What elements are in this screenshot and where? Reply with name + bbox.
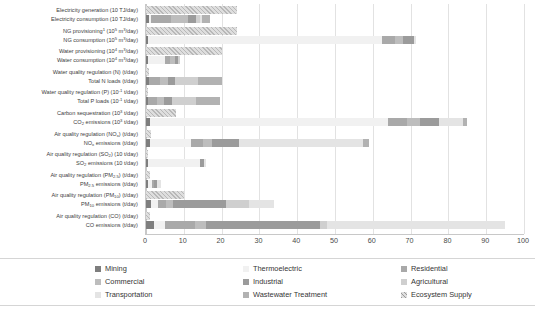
- stacked-bar: [146, 118, 467, 126]
- bar-row: [146, 15, 524, 24]
- bar-segment-industrial: [420, 118, 439, 126]
- legend-item-commercial[interactable]: Commercial: [95, 277, 243, 286]
- stacked-bar: [146, 15, 210, 23]
- legend-item-thermoelectric[interactable]: Thermoelectric: [243, 264, 401, 273]
- category-label: Air quality regulation (NOx) (t/day): [54, 130, 138, 139]
- legend-item-transportation[interactable]: Transportation: [95, 290, 243, 299]
- stacked-bar: [146, 139, 369, 147]
- stacked-bar: [146, 27, 237, 35]
- stacked-bar: [146, 36, 416, 44]
- category-label: CO2 emissions (103 t/day): [73, 118, 138, 127]
- x-tick-label: 100: [517, 236, 529, 245]
- stacked-bar: [146, 88, 148, 96]
- bar-row: [146, 171, 524, 180]
- stacked-bar: [146, 212, 150, 220]
- legend-item-mining[interactable]: Mining: [95, 264, 243, 273]
- bar-segment-ecosystem-supply: [146, 212, 150, 220]
- bar-segment-residential: [382, 36, 395, 44]
- legend-swatch: [243, 279, 249, 285]
- category-label: Air quality regulation (PM2.5) (t/day): [50, 171, 138, 180]
- bar-segment-transportation: [249, 200, 275, 208]
- bar-segment-industrial: [403, 36, 414, 44]
- category-label: Electricity generation (10 TJ/day): [56, 6, 138, 14]
- category-label: PM10 emissions (t/day): [81, 200, 138, 209]
- legend-swatch: [95, 292, 101, 298]
- legend-swatch: [401, 266, 407, 272]
- bar-segment-commercial: [157, 97, 164, 105]
- bar-segment-ecosystem-supply: [146, 109, 176, 117]
- legend-swatch: [95, 279, 101, 285]
- x-tick-label: 60: [368, 236, 376, 245]
- legend-swatch: [401, 292, 407, 298]
- category-label: CO emissions (t/day): [86, 221, 138, 229]
- bar-row: [146, 200, 524, 209]
- x-tick-label: 0: [143, 236, 147, 245]
- legend-label: Wastewater Treatment: [253, 290, 327, 299]
- category-label: Carbon sequestration (103 t/day): [57, 109, 138, 118]
- bar-segment-industrial: [212, 139, 238, 147]
- legend-item-agricultural[interactable]: Agricultural: [401, 277, 535, 286]
- bar-segment-commercial: [395, 36, 403, 44]
- bar-row: [146, 191, 524, 200]
- bar-segment-transportation: [239, 139, 364, 147]
- bar-segment-ecosystem-supply: [146, 171, 150, 179]
- stacked-bar-chart: Electricity generation (10 TJ/day)Electr…: [0, 0, 535, 312]
- bar-segment-residential: [158, 200, 166, 208]
- x-tick-label: 70: [406, 236, 414, 245]
- stacked-bar: [146, 77, 222, 85]
- legend-label: Agricultural: [411, 277, 448, 286]
- legend-item-wastewater-treatment[interactable]: Wastewater Treatment: [243, 290, 401, 299]
- x-axis-ticks: 0102030405060708090100: [145, 236, 523, 250]
- legend-grid: MiningThermoelectricResidentialCommercia…: [95, 262, 535, 301]
- bar-row: [146, 118, 524, 127]
- category-label: NOx emissions (t/day): [84, 139, 138, 148]
- bar-segment-mining: [146, 221, 154, 229]
- x-tick-label: 10: [179, 236, 187, 245]
- legend-label: Mining: [105, 264, 127, 273]
- bar-segment-ecosystem-supply: [146, 191, 184, 199]
- bar-segment-thermoelectric: [148, 56, 165, 64]
- bar-segment-residential: [148, 97, 157, 105]
- bar-segment-agricultural: [175, 77, 198, 85]
- category-label: Air quality regulation (PM10) (t/day): [52, 191, 138, 200]
- bar-row: [146, 68, 524, 77]
- bar-segment-agricultural: [320, 221, 328, 229]
- bar-segment-wastewater-treatment: [198, 77, 221, 85]
- legend-item-ecosystem-supply[interactable]: Ecosystem Supply: [401, 290, 535, 299]
- bar-segment-residential: [191, 139, 202, 147]
- legend-label: Transportation: [105, 290, 152, 299]
- stacked-bar: [146, 130, 151, 138]
- bar-row: [146, 36, 524, 45]
- stacked-bar: [146, 180, 161, 188]
- legend-swatch: [95, 266, 101, 272]
- bar-row: [146, 27, 524, 36]
- bar-row: [146, 139, 524, 148]
- x-tick-label: 50: [330, 236, 338, 245]
- bar-segment-ecosystem-supply: [146, 68, 149, 76]
- bar-segment-wastewater-treatment: [202, 15, 210, 23]
- stacked-bar: [146, 221, 505, 229]
- bar-segment-ecosystem-supply: [146, 47, 222, 55]
- legend-item-residential[interactable]: Residential: [401, 264, 535, 273]
- legend-item-industrial[interactable]: Industrial: [243, 277, 401, 286]
- bar-segment-wastewater-treatment: [463, 118, 467, 126]
- stacked-bar: [146, 171, 150, 179]
- stacked-bar: [146, 68, 149, 76]
- bar-segment-thermoelectric: [150, 118, 388, 126]
- category-label: Water consumption (104 m3/day): [57, 56, 138, 65]
- category-label: NG provisioning1 (105 m3/day): [63, 27, 138, 36]
- bar-segment-thermoelectric: [150, 139, 192, 147]
- category-label: Water quality regulation (P) (10-1 t/day…: [42, 88, 139, 97]
- legend-swatch: [401, 279, 407, 285]
- stacked-bar: [146, 97, 220, 105]
- category-label: Electricity consumption (10 TJ/day): [51, 15, 138, 23]
- category-label: Water quality regulation (N) (t/day): [53, 68, 138, 76]
- bar-segment-industrial: [168, 77, 176, 85]
- bar-segment-commercial: [407, 118, 420, 126]
- category-label: PM2.5 emissions (t/day): [80, 180, 138, 189]
- bar-segment-ecosystem-supply: [146, 150, 148, 158]
- x-tick-label: 20: [217, 236, 225, 245]
- category-label: SO2 emissions (10 t/day): [76, 159, 138, 168]
- stacked-bar: [146, 191, 184, 199]
- category-axis-labels: Electricity generation (10 TJ/day)Electr…: [0, 0, 142, 238]
